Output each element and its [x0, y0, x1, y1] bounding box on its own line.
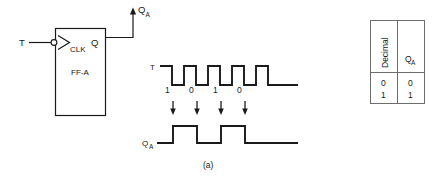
table-cell: 0: [381, 78, 386, 88]
inverting-bubble-icon: [51, 40, 57, 46]
table-cell: 1: [408, 90, 413, 100]
timing-diagram-group: T 1 0 1 0 Q A (a): [142, 63, 298, 170]
clock-label: CLK: [70, 45, 86, 54]
figure-svg: T CLK FF-A Q Q A T 1 0 1 0: [0, 0, 443, 178]
output-wire: [106, 13, 134, 38]
timing-label-t: T: [150, 63, 155, 72]
clock-triangle-icon: [58, 36, 70, 50]
output-signal-label: Q: [138, 4, 145, 15]
down-arrow-head-icon: [194, 109, 200, 115]
output-signal-sub: A: [146, 11, 151, 18]
table-cell: 0: [408, 78, 413, 88]
edge-arrows-group: [170, 101, 248, 115]
up-arrow-icon: [130, 8, 136, 15]
waveform-t: [160, 66, 298, 85]
down-arrow-head-icon: [218, 109, 224, 115]
timing-label-qa: Q: [142, 139, 148, 148]
figure-caption: (a): [203, 160, 214, 170]
output-pin-label: Q: [91, 37, 98, 48]
input-label-t: T: [19, 37, 25, 48]
timing-digit: 0: [189, 85, 194, 95]
timing-digit: 0: [237, 85, 242, 95]
timing-digit: 1: [165, 85, 170, 95]
table-cell: 1: [381, 90, 386, 100]
down-arrow-head-icon: [242, 109, 248, 115]
waveform-qa: [157, 126, 298, 143]
block-label: FF-A: [71, 68, 89, 77]
timing-label-qa-sub: A: [149, 143, 154, 150]
table-header-qa-sub: A: [411, 59, 416, 66]
down-arrow-head-icon: [170, 109, 176, 115]
timing-digit: 1: [213, 85, 218, 95]
truth-table-group: Decimal Q A 0 0 1 1: [371, 21, 425, 104]
table-header-decimal: Decimal: [380, 37, 390, 68]
figure-canvas: T CLK FF-A Q Q A T 1 0 1 0: [0, 0, 443, 178]
circuit-group: T CLK FF-A Q Q A: [19, 4, 151, 116]
